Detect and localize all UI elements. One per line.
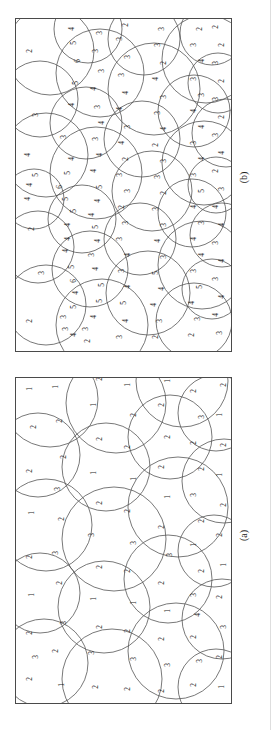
multiplicity-label: 3	[115, 37, 124, 41]
multiplicity-label: 3	[189, 77, 198, 81]
multiplicity-label: 4	[187, 301, 196, 305]
multiplicity-label: 2	[219, 443, 228, 447]
multiplicity-label: 2	[25, 49, 34, 53]
multiplicity-label: 4	[211, 205, 220, 209]
multiplicity-label: 4	[159, 127, 168, 131]
multiplicity-label: 4	[71, 291, 80, 295]
coverage-circle	[136, 377, 228, 427]
multiplicity-label: 2	[117, 205, 126, 209]
multiplicity-label: 1	[89, 471, 98, 475]
multiplicity-label: 5	[91, 225, 100, 229]
multiplicity-label: 5	[95, 299, 104, 303]
multiplicity-label: 2	[157, 403, 166, 407]
multiplicity-label: 2	[157, 465, 166, 469]
multiplicity-label: 5	[69, 209, 78, 213]
coverage-circle	[58, 561, 150, 653]
coverage-circle	[16, 18, 94, 95]
multiplicity-label: 2	[123, 569, 132, 573]
multiplicity-label: 2	[219, 383, 228, 387]
multiplicity-label: 3	[211, 133, 220, 137]
multiplicity-label: 3	[93, 105, 102, 109]
multiplicity-label: 4	[217, 151, 226, 155]
page-edge-artifact	[270, 0, 271, 730]
multiplicity-label: 2	[163, 435, 172, 439]
multiplicity-label: 4	[23, 197, 32, 201]
coverage-circle	[50, 87, 122, 159]
multiplicity-label: 4	[189, 237, 198, 241]
multiplicity-label: 2	[123, 629, 132, 633]
multiplicity-label: 4	[193, 613, 202, 617]
multiplicity-label: 3	[31, 113, 40, 117]
multiplicity-label: 3	[153, 175, 162, 179]
multiplicity-label: 3	[159, 159, 168, 163]
multiplicity-label: 4	[87, 213, 96, 217]
multiplicity-label: 4	[69, 333, 78, 337]
multiplicity-label: 1	[25, 387, 34, 391]
panel-a-coverage-plot: 2321212211232323221232123212122321232122…	[16, 377, 232, 703]
multiplicity-label: 4	[157, 287, 166, 291]
multiplicity-label: 3	[157, 27, 166, 31]
multiplicity-label: 3	[59, 135, 68, 139]
multiplicity-label: 3	[97, 69, 106, 73]
multiplicity-label: 4	[61, 249, 70, 253]
panel-a-plot-frame: 2321212211232323221232123212122321232122…	[15, 377, 232, 704]
multiplicity-label: 3	[51, 551, 60, 555]
multiplicity-label: 4	[217, 223, 226, 227]
coverage-circle	[104, 101, 180, 177]
multiplicity-label: 4	[121, 91, 130, 95]
multiplicity-label: 4	[63, 237, 72, 241]
multiplicity-label: 3	[117, 73, 126, 77]
multiplicity-label: 3	[189, 593, 198, 597]
multiplicity-label: 2	[197, 569, 206, 573]
multiplicity-label: 3	[87, 533, 96, 537]
multiplicity-label: 2	[187, 333, 196, 337]
panel-b-coverage-plot: 2324454323345465444556543456542345543454…	[16, 18, 232, 351]
multiplicity-label: 4	[197, 157, 206, 161]
multiplicity-label: 3	[87, 253, 96, 257]
multiplicity-label: 1	[163, 609, 172, 613]
multiplicity-label: 3	[121, 221, 130, 225]
multiplicity-label: 3	[129, 657, 138, 661]
multiplicity-label: 2	[157, 525, 166, 529]
multiplicity-label: 5	[195, 285, 204, 289]
multiplicity-label: 1	[215, 473, 224, 477]
multiplicity-label: 2	[195, 27, 204, 31]
multiplicity-label: 2	[121, 157, 130, 161]
multiplicity-label: 2	[55, 581, 64, 585]
multiplicity-label: 4	[189, 205, 198, 209]
coverage-circle	[182, 439, 232, 523]
multiplicity-label: 3	[159, 223, 168, 227]
multiplicity-label: 2	[217, 79, 226, 83]
multiplicity-label: 3	[117, 269, 126, 273]
multiplicity-label: 5	[63, 171, 72, 175]
multiplicity-label: 6	[73, 59, 82, 63]
multiplicity-label: 3	[159, 255, 168, 259]
multiplicity-label: 2	[57, 517, 66, 521]
panel-b-label: (b)	[238, 172, 249, 184]
multiplicity-label: 2	[151, 143, 160, 147]
multiplicity-label: 4	[211, 313, 220, 317]
multiplicity-label: 2	[95, 377, 104, 381]
multiplicity-label: 4	[95, 153, 104, 157]
multiplicity-label: 4	[67, 157, 76, 161]
multiplicity-label: 3	[197, 221, 206, 225]
multiplicity-label: 4	[217, 295, 226, 299]
multiplicity-label: 2	[129, 413, 138, 417]
multiplicity-label: 2	[215, 533, 224, 537]
coverage-circle	[48, 185, 116, 253]
multiplicity-label: 5	[151, 271, 160, 275]
multiplicity-label: 3	[53, 487, 62, 491]
multiplicity-label: 3	[197, 93, 206, 97]
multiplicity-label: 1	[27, 511, 36, 515]
multiplicity-label: 2	[123, 445, 132, 449]
multiplicity-label: 4	[91, 267, 100, 271]
multiplicity-label: 3	[95, 31, 104, 35]
multiplicity-label: 1	[123, 383, 132, 387]
multiplicity-label: 1	[89, 597, 98, 601]
multiplicity-label: 3	[123, 55, 132, 59]
multiplicity-label: 4	[63, 223, 72, 227]
multiplicity-label: 3	[115, 173, 124, 177]
multiplicity-label: 2	[189, 683, 198, 687]
multiplicity-label: 3	[153, 111, 162, 115]
multiplicity-label: 5	[95, 185, 104, 189]
